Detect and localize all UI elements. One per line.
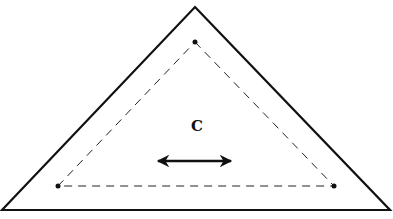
outer-triangle (2, 7, 390, 210)
vertex-dot-left (56, 184, 61, 189)
vertex-dot-right (332, 184, 337, 189)
triangle-diagram: C (0, 0, 393, 219)
inner-dashed-triangle (58, 42, 334, 186)
diagram-svg (0, 0, 393, 219)
vertex-dot-top (193, 40, 198, 45)
region-label-c: C (191, 119, 203, 134)
